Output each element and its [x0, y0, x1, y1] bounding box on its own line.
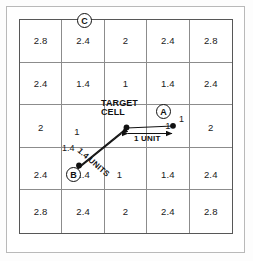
grid-cell: 2.8: [20, 190, 62, 233]
target-cell-label-line2: CELL: [101, 108, 138, 117]
cell-value: 2.4: [204, 79, 218, 89]
cell-value: 2: [38, 123, 43, 133]
cell-value: 1.4: [161, 170, 175, 180]
grid-cell: 2.4: [190, 63, 232, 106]
cell-value: 2.8: [204, 36, 218, 46]
cell-value: 2.8: [204, 207, 218, 217]
cell-value: 2.4: [76, 36, 90, 46]
marker-a-label: A: [160, 107, 167, 117]
cell-value: 2.4: [34, 79, 48, 89]
measure-label-1-unit: 1 UNIT: [134, 135, 161, 143]
grid-cell: 2.8: [190, 190, 232, 233]
diagram-canvas: 2.8 2.4 2 2.4 2.8 2.4 1.4 1 1.4 2.4 2 1 …: [0, 0, 253, 261]
cell-value: 2.4: [161, 36, 175, 46]
cell-value: 1: [117, 170, 122, 180]
cell-value: 2: [123, 207, 128, 217]
grid-cell: 1: [105, 148, 147, 191]
cell-value: 2.8: [34, 36, 48, 46]
marker-b-icon: B: [66, 167, 81, 182]
cell-value: 1: [74, 127, 79, 137]
grid-cell: 2.4: [147, 20, 189, 63]
marker-a-icon: A: [156, 104, 171, 119]
cell-value: 2.4: [161, 207, 175, 217]
grid-cell: 2: [105, 20, 147, 63]
cell-value: 1.4: [161, 79, 175, 89]
cell-value: 2.4: [34, 170, 48, 180]
grid-cell: 2.4: [147, 190, 189, 233]
grid-cell: 2.8: [190, 20, 232, 63]
grid-cell: 1.4: [62, 63, 104, 106]
distance-grid: 2.8 2.4 2 2.4 2.8 2.4 1.4 1 1.4 2.4 2 1 …: [19, 19, 233, 234]
marker-c-icon: C: [77, 13, 92, 28]
grid-cell: 2.4: [62, 190, 104, 233]
cell-value: 1.4: [76, 79, 90, 89]
value-at-b: 1.4: [62, 143, 75, 153]
grid-cell: 2.4: [20, 148, 62, 191]
grid-cell: 1: [62, 105, 104, 148]
grid-cell: 1.4: [147, 63, 189, 106]
marker-b-label: B: [70, 170, 77, 180]
cell-value: 2.4: [204, 170, 218, 180]
cell-value: 2.4: [76, 207, 90, 217]
target-cell-label: TARGET CELL: [101, 99, 138, 117]
grid-cell: 2: [190, 105, 232, 148]
cell-value: 1: [165, 121, 170, 131]
grid-cell: 2: [105, 190, 147, 233]
grid-cell: 2.4: [20, 63, 62, 106]
cell-value: 1: [123, 79, 128, 89]
grid-cell: 2: [20, 105, 62, 148]
marker-c-label: C: [81, 16, 88, 26]
cell-value: 2: [123, 36, 128, 46]
value-at-a: 1: [179, 114, 184, 124]
grid-cell: 2.8: [20, 20, 62, 63]
grid-cell: 2.4: [190, 148, 232, 191]
cell-value: 2.8: [34, 207, 48, 217]
cell-value: 2: [208, 123, 213, 133]
grid-cell: 1.4: [147, 148, 189, 191]
